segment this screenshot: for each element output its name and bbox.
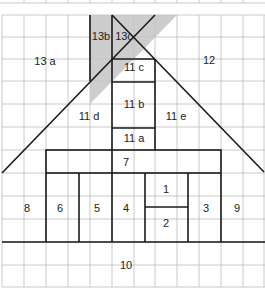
label-11c: 11 c <box>124 61 144 73</box>
label-3: 3 <box>203 202 209 214</box>
label-11d: 11 d <box>79 110 100 122</box>
label-11e: 11 e <box>166 110 187 122</box>
label-10: 10 <box>120 259 132 271</box>
label-7: 7 <box>123 156 129 168</box>
label-11a: 11 a <box>124 132 145 144</box>
label-11b: 11 b <box>124 98 145 110</box>
label-8: 8 <box>24 202 30 214</box>
label-13a: 13 a <box>34 55 56 67</box>
label-9: 9 <box>234 202 240 214</box>
label-6: 6 <box>57 202 63 214</box>
house-region-diagram: 13 a 13b 13c 12 11 c 11 b 11 d 11 e 11 a… <box>0 0 265 296</box>
label-12: 12 <box>203 54 215 66</box>
label-4: 4 <box>123 202 129 214</box>
label-2: 2 <box>163 217 169 229</box>
label-5: 5 <box>94 202 100 214</box>
label-13b: 13b <box>92 30 110 42</box>
label-1: 1 <box>163 183 169 195</box>
label-13c: 13c <box>115 30 133 42</box>
